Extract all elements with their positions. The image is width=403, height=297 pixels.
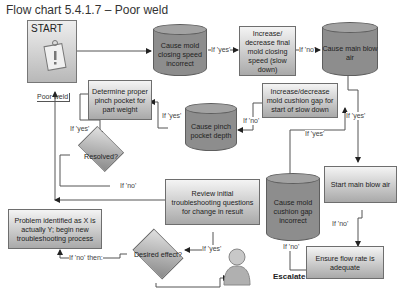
edge-label-no-then: If 'no' then: — [69, 254, 103, 262]
edge-label-no: If 'no' — [120, 182, 136, 190]
start-caption: Poor weld — [37, 93, 70, 102]
edge-label-yes: If 'yes' — [70, 125, 89, 133]
edge-label-yes: If 'yes' — [202, 245, 221, 253]
edge-label-yes: If 'yes' — [305, 130, 324, 138]
adjust-final-closing-speed-node[interactable]: Increase/ decrease final mold closing sp… — [239, 26, 296, 76]
review-questions-node[interactable]: Review initial troubleshooting questions… — [165, 179, 260, 225]
desired-effect-decision[interactable]: Desired effect? — [128, 228, 188, 280]
edge-label-yes: If 'yes' — [162, 112, 181, 120]
edge-label-no: If 'no' — [299, 46, 315, 54]
determine-pinch-pocket-node[interactable]: Determine proper pinch pocket for part w… — [88, 80, 152, 120]
escalate-label[interactable]: Escalate — [273, 272, 305, 281]
edge-label-yes: If 'yes' — [211, 46, 230, 54]
clipboard-warning-icon — [43, 39, 67, 71]
edge-label-no: If 'no' — [243, 117, 259, 125]
edge-label-no: If 'no' — [283, 243, 299, 251]
adjust-cushion-gap-node[interactable]: Increase/decrease mold cushion gap for s… — [262, 83, 338, 118]
resolved-decision[interactable]: Resolved? — [70, 137, 132, 175]
cause-main-blow-air-node[interactable]: Cause main blow air — [322, 22, 378, 76]
cause-mold-closing-speed-node[interactable]: Cause mold closing speed incorrect — [153, 24, 207, 76]
ensure-flow-rate-node[interactable]: Ensure flow rate is adequate — [306, 246, 384, 279]
edge-label-yes: If 'yes' — [346, 112, 365, 120]
start-label: START — [31, 23, 63, 34]
start-node[interactable]: START — [27, 20, 77, 83]
cause-pinch-pocket-node[interactable]: Cause pinch pocket depth — [185, 103, 237, 151]
start-main-blow-air-node[interactable]: Start main blow air — [324, 166, 397, 203]
cause-cushion-gap-node[interactable]: Cause mold cushion gap incorrect — [266, 173, 320, 241]
problem-identified-node[interactable]: Problem identified as X is actually Y; b… — [8, 209, 102, 249]
edge-label-no: If 'no' — [332, 220, 348, 228]
person-icon — [222, 248, 252, 286]
